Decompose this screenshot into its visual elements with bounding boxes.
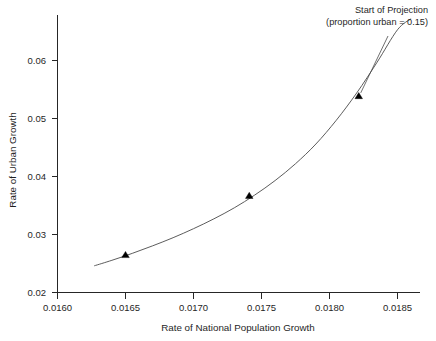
annotation-line-2: (proportion urban = 0.15) [326, 17, 428, 27]
chart-svg: 0.0160 0.0165 0.0170 0.0175 0.0180 0.018… [0, 0, 436, 341]
x-tick-label: 0.0180 [315, 302, 344, 313]
y-tick-label: 0.03 [28, 229, 47, 240]
x-axis-title: Rate of National Population Growth [161, 322, 315, 333]
x-tick-label: 0.0160 [43, 302, 72, 313]
chart-figure: 0.0160 0.0165 0.0170 0.0175 0.0180 0.018… [0, 0, 436, 341]
y-tick-label: 0.02 [28, 287, 47, 298]
y-tick-label: 0.06 [28, 55, 47, 66]
y-tick-label: 0.05 [28, 113, 47, 124]
y-tick-label: 0.04 [28, 171, 47, 182]
y-axis-title: Rate of Urban Growth [7, 112, 18, 207]
annotation-line-1: Start of Projection [355, 5, 428, 15]
chart-background [0, 0, 436, 341]
x-tick-label: 0.0165 [111, 302, 140, 313]
x-tick-label: 0.0175 [247, 302, 276, 313]
x-tick-label: 0.0185 [383, 302, 412, 313]
x-tick-label: 0.0170 [179, 302, 208, 313]
